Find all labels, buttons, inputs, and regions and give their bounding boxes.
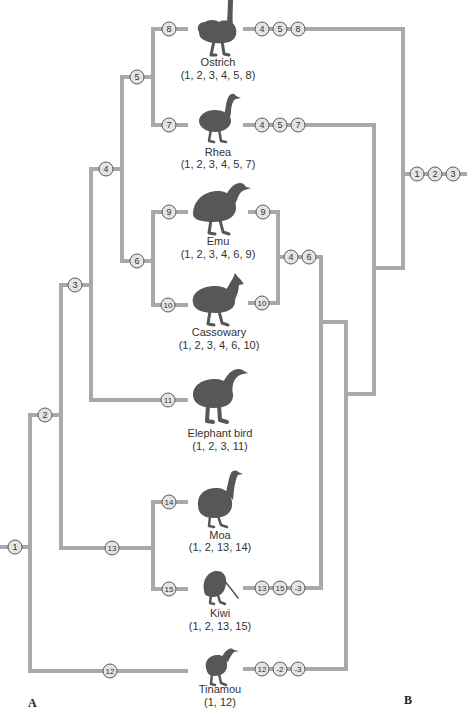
character-marker: 2 — [428, 167, 442, 181]
character-marker-4: 4 — [99, 162, 113, 176]
ratite-phylogeny-figure: 1 2 3 4 5 6 7 8 9 10 11 12 13 14 15 A — [0, 0, 467, 717]
taxon-moa: Moa (1, 2, 13, 14) — [189, 471, 251, 553]
character-marker: 5 — [273, 22, 287, 36]
character-marker: 6 — [302, 250, 316, 264]
character-marker: 1 — [410, 167, 424, 181]
ostrich-silhouette-icon — [198, 0, 237, 55]
character-marker: 3 — [446, 167, 460, 181]
svg-text:15: 15 — [276, 584, 285, 593]
svg-text:-3: -3 — [294, 665, 302, 674]
character-marker-12: 12 — [103, 664, 117, 678]
character-marker: 4 — [284, 250, 298, 264]
svg-text:3: 3 — [72, 280, 77, 290]
taxon-name: Rhea — [205, 146, 232, 158]
character-marker-1: 1 — [8, 540, 22, 554]
cassowary-silhouette-icon — [193, 273, 244, 325]
svg-text:10: 10 — [164, 301, 173, 310]
tree-b-tinamou-markers: 12 -2 -3 — [255, 662, 305, 676]
svg-text:8: 8 — [295, 24, 300, 34]
character-marker: 8 — [291, 22, 305, 36]
svg-text:12: 12 — [106, 667, 115, 676]
character-marker: -3 — [291, 662, 305, 676]
taxon-characters: (1, 2, 3, 4, 5, 7) — [181, 158, 256, 170]
svg-text:7: 7 — [295, 120, 300, 130]
panel-label-a: A — [28, 696, 37, 710]
character-marker-15: 15 — [162, 582, 176, 596]
taxon-name: Tinamou — [199, 683, 241, 695]
taxon-characters: (1, 12) — [204, 696, 236, 708]
taxon-characters: (1, 2, 3, 4, 6, 10) — [179, 339, 260, 351]
character-marker: 12 — [255, 662, 269, 676]
svg-text:2: 2 — [42, 410, 47, 420]
svg-text:10: 10 — [258, 299, 267, 308]
svg-text:11: 11 — [164, 396, 173, 405]
character-marker-10: 10 — [161, 298, 175, 312]
svg-text:1: 1 — [12, 542, 17, 552]
taxon-rhea: Rhea (1, 2, 3, 4, 5, 7) — [181, 94, 256, 170]
tree-a-branches — [0, 29, 186, 671]
rhea-silhouette-icon — [199, 94, 241, 142]
character-marker-5: 5 — [130, 70, 144, 84]
phylogeny-canvas: 1 2 3 4 5 6 7 8 9 10 11 12 13 14 15 A — [0, 0, 467, 717]
taxon-characters: (1, 2, 3, 11) — [192, 440, 247, 452]
svg-text:4: 4 — [103, 164, 108, 174]
panel-label-b: B — [404, 693, 412, 707]
character-marker-2: 2 — [38, 408, 52, 422]
svg-text:4: 4 — [288, 252, 293, 262]
tree-b-root-markers: 1 2 3 — [410, 167, 460, 181]
svg-text:13: 13 — [258, 584, 267, 593]
svg-text:8: 8 — [166, 24, 171, 34]
character-marker-7: 7 — [162, 118, 176, 132]
elephant-bird-silhouette-icon — [193, 369, 248, 422]
character-marker-3: 3 — [68, 278, 82, 292]
svg-text:5: 5 — [277, 24, 282, 34]
taxon-characters: (1, 2, 13, 14) — [189, 541, 251, 553]
character-marker-11: 11 — [161, 393, 175, 407]
tinamou-silhouette-icon — [206, 649, 239, 685]
svg-text:1: 1 — [414, 169, 419, 179]
character-marker-9: 9 — [162, 205, 176, 219]
taxon-name: Emu — [207, 235, 230, 247]
svg-text:6: 6 — [306, 252, 311, 262]
svg-text:3: 3 — [450, 169, 455, 179]
svg-text:7: 7 — [166, 120, 171, 130]
taxon-name: Moa — [209, 529, 231, 541]
svg-text:5: 5 — [277, 120, 282, 130]
taxon-name: Elephant bird — [188, 427, 253, 439]
character-marker-14: 14 — [162, 495, 176, 509]
svg-text:9: 9 — [166, 207, 171, 217]
taxon-kiwi: Kiwi (1, 2, 13, 15) — [189, 571, 251, 632]
character-marker: 10 — [255, 296, 269, 310]
svg-text:-2: -2 — [276, 665, 284, 674]
svg-text:12: 12 — [258, 665, 267, 674]
character-marker: -3 — [291, 581, 305, 595]
moa-silhouette-icon — [198, 471, 243, 527]
svg-text:15: 15 — [165, 585, 174, 594]
tree-a: 1 2 3 4 5 6 7 8 9 10 11 12 13 14 15 A — [0, 22, 186, 710]
tree-b-rhea-markers: 4 5 7 — [255, 118, 305, 132]
emu-silhouette-icon — [193, 183, 251, 234]
character-marker: -2 — [273, 662, 287, 676]
taxon-cassowary: Cassowary (1, 2, 3, 4, 6, 10) — [179, 273, 260, 351]
taxon-characters: (1, 2, 13, 15) — [189, 620, 251, 632]
tree-b-ostrich-markers: 4 5 8 — [255, 22, 305, 36]
kiwi-silhouette-icon — [204, 571, 238, 604]
taxon-name: Cassowary — [192, 326, 247, 338]
taxon-tinamou: Tinamou (1, 12) — [199, 649, 241, 708]
tree-b-kiwi-markers: 13 15 -3 — [255, 581, 305, 595]
character-marker: 15 — [273, 581, 287, 595]
character-marker-8: 8 — [162, 22, 176, 36]
svg-text:4: 4 — [259, 24, 264, 34]
svg-text:-3: -3 — [294, 584, 302, 593]
svg-text:4: 4 — [259, 120, 264, 130]
svg-text:14: 14 — [165, 498, 174, 507]
svg-text:6: 6 — [134, 256, 139, 266]
svg-text:2: 2 — [432, 169, 437, 179]
character-marker: 5 — [273, 118, 287, 132]
character-marker: 13 — [255, 581, 269, 595]
svg-text:5: 5 — [134, 72, 139, 82]
taxon-characters: (1, 2, 3, 4, 6, 9) — [181, 248, 256, 260]
taxon-ostrich: Ostrich (1, 2, 3, 4, 5, 8) — [181, 0, 256, 81]
tree-b: 4 5 8 4 5 7 9 10 4 6 13 15 -3 12 -2 -3 — [245, 22, 467, 707]
character-marker: 9 — [256, 205, 270, 219]
